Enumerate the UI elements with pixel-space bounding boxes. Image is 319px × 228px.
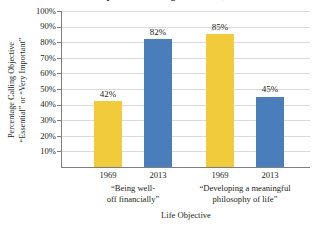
y-axis-tick-mark [57, 105, 61, 106]
x-axis-group-label-line: philosophy of life” [183, 194, 307, 205]
x-axis-category-label: 2013 [250, 170, 290, 180]
x-axis-line [61, 167, 310, 168]
x-axis-title: Life Objective [62, 210, 310, 220]
x-axis-category-label: 2013 [138, 170, 178, 180]
y-axis-tick-label: 30% [28, 116, 56, 125]
y-axis-tick-label: 50% [28, 85, 56, 94]
y-axis-tick-label: 70% [28, 54, 56, 63]
bar-value-label: 82% [138, 28, 178, 37]
y-axis-title-line-1: Percentage Calling Objective [7, 4, 18, 176]
bars-layer: 42%82%85%45% [62, 11, 310, 167]
y-axis-tick-mark [57, 42, 61, 43]
chart-title: Life Objectives of College Freshmen, 196… [52, 0, 292, 3]
y-axis-tick-mark [57, 89, 61, 90]
x-axis-group-labels: “Being well-off financially”“Developing … [62, 183, 310, 209]
x-axis-category-label: 1969 [200, 170, 240, 180]
x-axis-group-label-line: off financially” [71, 194, 195, 205]
x-axis-group-label: “Being well-off financially” [71, 183, 195, 204]
bar [206, 34, 234, 167]
y-axis-tick-label: 90% [28, 22, 56, 31]
x-axis-group-label-line: “Developing a meaningful [183, 183, 307, 194]
y-axis-tick-label: 80% [28, 38, 56, 47]
bar-value-label: 85% [200, 23, 240, 32]
bar [144, 39, 172, 167]
y-axis-tick-mark [57, 151, 61, 152]
y-axis-tick-labels: 100%90%80%70%60%50%40%30%20%10% [24, 0, 56, 180]
bar [94, 101, 122, 167]
y-axis-tick-label: 100% [28, 7, 56, 16]
y-axis-tick-label: 40% [28, 100, 56, 109]
y-axis-tick-mark [57, 136, 61, 137]
y-axis-tick-mark [57, 73, 61, 74]
y-axis-tick-mark [57, 58, 61, 59]
bar-value-label: 42% [88, 90, 128, 99]
y-axis-tick-label: 10% [28, 147, 56, 156]
y-axis-tick-mark [57, 11, 61, 12]
y-axis-tick-mark [57, 120, 61, 121]
y-axis-tick-label: 20% [28, 132, 56, 141]
bar-chart: Life Objectives of College Freshmen, 196… [0, 0, 319, 228]
x-axis-category-labels: 1969201319692013 [62, 170, 310, 182]
bar-value-label: 45% [250, 85, 290, 94]
x-axis-group-label-line: “Being well- [71, 183, 195, 194]
y-axis-tick-mark [57, 27, 61, 28]
x-axis-group-label: “Developing a meaningfulphilosophy of li… [183, 183, 307, 204]
x-axis-category-label: 1969 [88, 170, 128, 180]
bar [256, 97, 284, 167]
y-axis-tick-label: 60% [28, 69, 56, 78]
